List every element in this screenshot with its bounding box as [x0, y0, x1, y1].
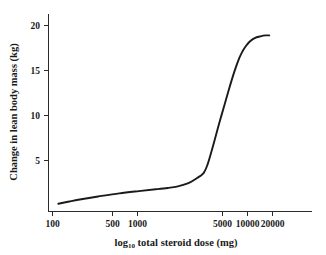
y-axis-title: Change in lean body mass (kg) [8, 43, 20, 181]
x-tick-label: 1000 [128, 219, 147, 229]
y-tick-label: 10 [31, 111, 41, 121]
x-tick-label: 10000 [236, 219, 260, 229]
x-axis-title-after: total steroid dose (mg) [135, 237, 238, 249]
x-tick-label: 20000 [261, 219, 285, 229]
x-axis-ticks: 100 500 1000 5000 10000 20000 [45, 212, 284, 230]
y-tick-label: 15 [31, 66, 41, 76]
data-series-line [58, 35, 269, 203]
x-axis-title: log10 total steroid dose (mg) [115, 237, 238, 250]
chart-plot-area: Change in lean body mass (kg) 20 15 10 5… [0, 0, 326, 255]
chart-figure: Change in lean body mass (kg) 20 15 10 5… [0, 0, 326, 255]
x-axis-title-before: log [115, 237, 129, 248]
y-tick-label: 5 [35, 156, 40, 166]
y-tick-label: 20 [31, 21, 41, 31]
x-tick-label: 100 [45, 219, 60, 229]
x-tick-label: 500 [105, 219, 120, 229]
x-tick-label: 5000 [213, 219, 232, 229]
y-axis-ticks: 20 15 10 5 [31, 21, 49, 166]
